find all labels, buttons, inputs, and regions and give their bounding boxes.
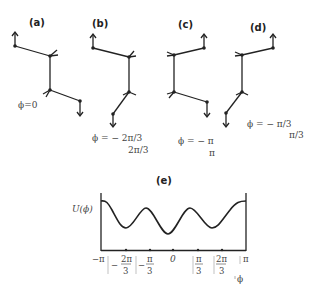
panel-c: (c) ϕ = − π π <box>167 19 215 158</box>
svg-text:2π: 2π <box>121 254 132 264</box>
svg-text:−: − <box>138 260 145 270</box>
panel-a: (a) ϕ=0 <box>12 17 83 116</box>
panel-b-label: (b) <box>92 18 108 29</box>
panel-c-phi-line1: ϕ = − π <box>178 136 214 146</box>
svg-text:−π: −π <box>92 254 105 264</box>
panel-e-plot: (e) U(ϕ) −π − 2π 3 <box>72 175 249 284</box>
panel-c-label: (c) <box>178 19 193 30</box>
plot-label: (e) <box>156 175 172 186</box>
diagram-canvas: (a) ϕ=0 <box>0 0 318 294</box>
panel-b: (b) ϕ = − 2π/3 2π/3 <box>90 18 149 155</box>
panel-d: (d) ϕ = − π/3 π/3 <box>223 22 304 140</box>
panel-a-phi: ϕ=0 <box>18 100 38 110</box>
panel-a-label: (a) <box>29 17 45 28</box>
panel-d-phi-line2: π/3 <box>289 130 304 140</box>
plot-axes <box>101 193 246 251</box>
panel-b-phi-line1: ϕ = − 2π/3 <box>92 133 142 143</box>
panel-c-phi-line2: π <box>209 148 215 158</box>
svg-text:π: π <box>147 254 153 264</box>
panel-d-label: (d) <box>250 22 266 33</box>
svg-text:3: 3 <box>123 266 128 276</box>
svg-text:2π: 2π <box>216 254 227 264</box>
svg-text:3: 3 <box>196 266 201 276</box>
svg-text:3: 3 <box>219 266 224 276</box>
panel-d-phi-line1: ϕ = − π/3 <box>247 119 292 129</box>
svg-text:3: 3 <box>147 266 152 276</box>
svg-text:π: π <box>243 254 249 264</box>
plot-ylabel: U(ϕ) <box>72 204 93 214</box>
svg-text:−: − <box>111 260 118 270</box>
potential-curve <box>101 201 246 234</box>
panel-b-phi-line2: 2π/3 <box>128 145 149 155</box>
svg-text:0: 0 <box>170 254 176 264</box>
plot-xlabel: ϕ <box>237 274 243 284</box>
svg-text:π: π <box>196 254 202 264</box>
plot-tick-labels: −π − 2π 3 − π 3 0 π 3 2π 3 <box>92 254 249 276</box>
